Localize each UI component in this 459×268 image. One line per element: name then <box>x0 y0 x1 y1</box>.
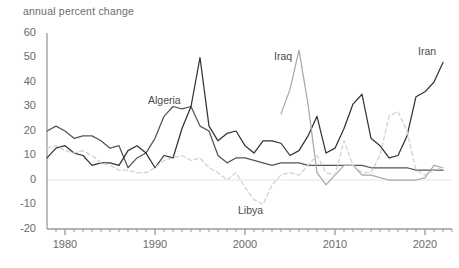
chart-series-group <box>47 50 443 204</box>
y-tick-label-30: 30 <box>10 99 36 111</box>
series-label-libya: Libya <box>238 204 263 216</box>
y-tick-label-neg10: -10 <box>10 197 36 209</box>
x-tick-label-1990: 1990 <box>133 238 177 250</box>
y-tick-label-neg20: -20 <box>10 222 36 234</box>
series-label-iran: Iran <box>418 45 436 57</box>
y-tick-label-60: 60 <box>10 26 36 38</box>
y-tick-label-50: 50 <box>10 50 36 62</box>
y-tick-label-40: 40 <box>10 75 36 87</box>
series-line-iran <box>47 58 443 168</box>
series-label-iraq: Iraq <box>274 50 292 62</box>
y-tick-label-10: 10 <box>10 148 36 160</box>
chart-container: annual percent change -20-10010203040506… <box>0 0 459 268</box>
chart-axes <box>47 33 452 229</box>
x-tick-label-2000: 2000 <box>223 238 267 250</box>
x-tick-label-1980: 1980 <box>43 238 87 250</box>
y-tick-label-20: 20 <box>10 124 36 136</box>
chart-plot-area <box>0 0 459 268</box>
x-tick-label-2020: 2020 <box>403 238 447 250</box>
y-tick-label-0: 0 <box>10 173 36 185</box>
x-tick-label-2010: 2010 <box>313 238 357 250</box>
series-label-algeria: Algeria <box>148 94 181 106</box>
